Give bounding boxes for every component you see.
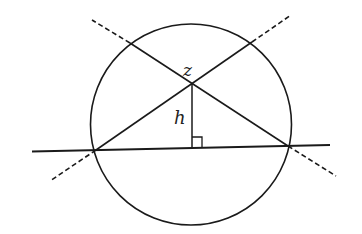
label-z: z — [182, 60, 193, 80]
chord-left-to-top-right — [96, 42, 252, 150]
circle — [91, 24, 292, 225]
label-h: h — [174, 107, 186, 128]
dashed-extension-bottom-left — [50, 150, 96, 181]
secant-line — [32, 145, 330, 152]
geometry-figure: z h — [0, 0, 362, 234]
right-angle-marker — [192, 137, 202, 147]
dashed-extension-bottom-right — [288, 146, 336, 176]
dashed-extension-top-left — [92, 20, 130, 43]
chord-top-left-to-right — [130, 43, 288, 146]
dashed-extension-top-right — [252, 15, 291, 42]
diagram-canvas: z h — [0, 0, 362, 234]
